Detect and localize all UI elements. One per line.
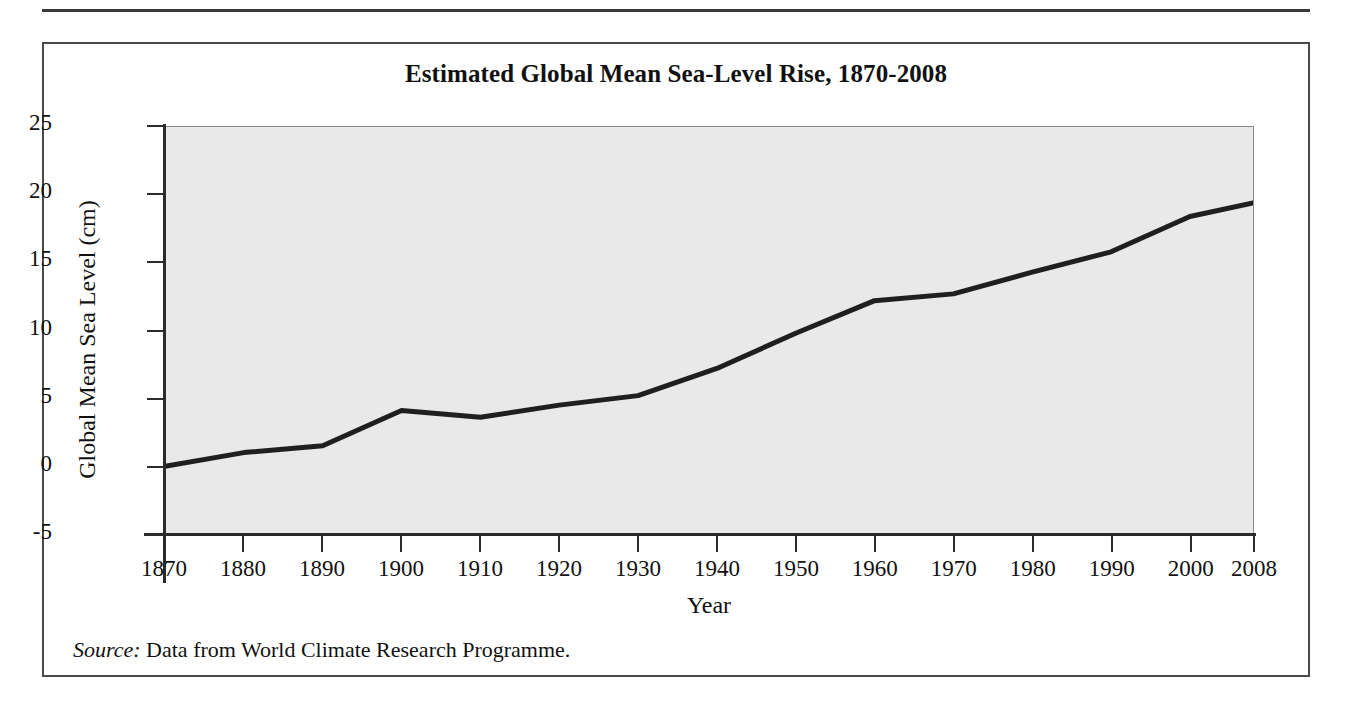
y-axis-tick — [147, 466, 164, 468]
chart-title: Estimated Global Mean Sea-Level Rise, 18… — [44, 60, 1308, 88]
x-axis-tick-label: 2008 — [1231, 556, 1277, 582]
x-axis-tick-label: 1950 — [773, 556, 819, 582]
x-axis-tick-label: 1990 — [1089, 556, 1135, 582]
source-label: Source: — [73, 637, 141, 662]
sea-level-line — [165, 203, 1253, 466]
x-axis-tick-label: 1960 — [852, 556, 898, 582]
y-axis-tick — [147, 261, 164, 263]
x-axis-tick-label: 1870 — [141, 556, 187, 582]
y-axis-tick — [147, 398, 164, 400]
plot-area — [164, 126, 1254, 535]
y-axis-tick-label: 15 — [29, 246, 52, 272]
x-axis-tick — [1032, 535, 1034, 552]
x-axis-tick-label: 2000 — [1168, 556, 1214, 582]
figure-frame: Estimated Global Mean Sea-Level Rise, 18… — [42, 42, 1310, 677]
x-axis-tick — [242, 535, 244, 552]
x-axis-tick — [479, 535, 481, 552]
y-axis-tick-label: 10 — [29, 315, 52, 341]
x-axis-tick — [874, 535, 876, 552]
x-axis-tick — [716, 535, 718, 552]
y-axis-tick-label: 25 — [29, 110, 52, 136]
x-axis-tick — [1190, 535, 1192, 552]
source-note: Source: Data from World Climate Research… — [73, 637, 570, 663]
y-axis-tick — [147, 125, 164, 127]
y-axis-tick — [147, 193, 164, 195]
y-axis-tick — [147, 534, 164, 536]
y-axis-tick-label: -5 — [33, 519, 52, 545]
x-axis-tick-label: 1940 — [694, 556, 740, 582]
x-axis-tick-label: 1880 — [220, 556, 266, 582]
y-axis-tick-label: 20 — [29, 178, 52, 204]
y-axis-tick — [147, 330, 164, 332]
x-axis-tick — [163, 535, 165, 552]
x-axis-tick-label: 1980 — [1010, 556, 1056, 582]
y-axis-tick-label: 0 — [41, 451, 53, 477]
x-axis-tick — [637, 535, 639, 552]
source-text: Data from World Climate Research Program… — [141, 637, 571, 662]
data-line-svg — [165, 127, 1253, 534]
x-axis-tick-label: 1970 — [931, 556, 977, 582]
x-axis-tick-label: 1900 — [378, 556, 424, 582]
x-axis-tick — [1253, 535, 1255, 552]
y-axis-title: Global Mean Sea Level (cm) — [74, 130, 101, 550]
x-axis-tick-label: 1890 — [299, 556, 345, 582]
x-axis-tick — [558, 535, 560, 552]
x-axis-line — [144, 533, 1256, 536]
top-divider-rule — [42, 9, 1310, 12]
x-axis-tick — [795, 535, 797, 552]
x-axis-tick — [1111, 535, 1113, 552]
x-axis-tick-label: 1910 — [457, 556, 503, 582]
x-axis-tick-label: 1920 — [536, 556, 582, 582]
x-axis-tick-label: 1930 — [615, 556, 661, 582]
x-axis-title: Year — [164, 592, 1254, 619]
y-axis-tick-label: 5 — [41, 383, 53, 409]
x-axis-tick — [953, 535, 955, 552]
figure-page: Estimated Global Mean Sea-Level Rise, 18… — [0, 0, 1354, 715]
x-axis-tick — [400, 535, 402, 552]
x-axis-tick — [321, 535, 323, 552]
